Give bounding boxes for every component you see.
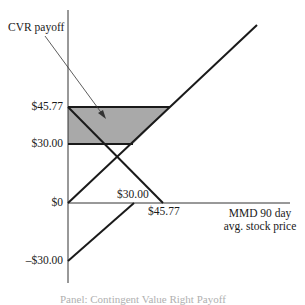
lower-diagonal-line bbox=[68, 203, 134, 261]
annotation-label: CVR payoff bbox=[8, 22, 64, 34]
y-tick-0: $0 bbox=[10, 197, 63, 209]
x-tick-45-77: $45.77 bbox=[148, 206, 180, 218]
figure-caption: Panel: Contingent Value Right Payoff bbox=[60, 293, 226, 305]
x-tick-30: $30.00 bbox=[117, 189, 149, 201]
x-axis-label-line2: avg. stock price bbox=[215, 221, 305, 233]
cvr-shaded-region bbox=[68, 107, 170, 144]
y-tick-neg30: –$30.00 bbox=[5, 255, 63, 267]
x-axis-label-line1: MMD 90 day bbox=[220, 208, 300, 220]
y-tick-45-77: $45.77 bbox=[10, 101, 63, 113]
y-tick-30: $30.00 bbox=[10, 138, 63, 150]
